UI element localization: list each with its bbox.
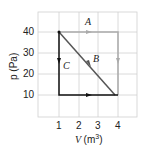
arrow-right-icon (86, 30, 92, 34)
tick-y-30: 30 (23, 47, 35, 58)
start-point (58, 31, 61, 34)
arrow-down-icon (57, 58, 61, 64)
arrow-right-icon (86, 93, 92, 97)
tick-x-1: 1 (56, 120, 62, 131)
label-b: B (93, 53, 99, 64)
tick-x-2: 2 (76, 120, 82, 131)
arrow-down-icon (116, 58, 120, 64)
tick-y-20: 20 (23, 68, 35, 79)
tick-x-3: 3 (95, 120, 101, 131)
tick-x-4: 4 (115, 120, 121, 131)
pv-diagram: A B C 1 2 3 4 40 30 20 10 V (m3) p (Pa) (0, 0, 147, 154)
label-a: A (84, 16, 92, 27)
label-c: C (63, 60, 70, 71)
x-axis-label: V (m3) (75, 133, 103, 145)
y-axis-label: p (Pa) (8, 53, 19, 80)
tick-y-10: 10 (23, 89, 35, 100)
tick-y-40: 40 (23, 26, 35, 37)
